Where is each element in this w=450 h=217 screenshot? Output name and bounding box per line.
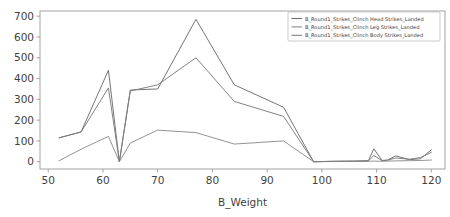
chart-legend[interactable]: B_Round1_Strikes_Clinch Head Strikes_Lan…	[288, 12, 440, 41]
y-tick-label: 100	[14, 135, 34, 147]
x-tick-label: 120	[421, 174, 441, 186]
chart-figure: 5060708090100110120 01002003004005006007…	[0, 0, 450, 217]
legend-label-2: B_Round1_Strikes_Clinch Body Strikes_Lan…	[305, 32, 423, 39]
y-tick-label: 300	[14, 93, 34, 105]
x-tick-label: 110	[367, 174, 387, 186]
y-tick-label: 700	[14, 10, 34, 22]
y-tick-label: 500	[14, 51, 34, 63]
x-tick-label: 90	[260, 174, 273, 186]
x-tick-label: 80	[206, 174, 219, 186]
x-tick-label: 100	[312, 174, 332, 186]
legend-label-0: B_Round1_Strikes_Clinch Head Strikes_Lan…	[305, 16, 424, 23]
y-tick-label: 600	[14, 31, 34, 43]
legend-label-1: B_Round1_Strikes_Clinch Leg Strikes_Land…	[305, 24, 419, 31]
y-tick-label: 400	[14, 72, 34, 84]
y-tick-label: 200	[14, 114, 34, 126]
y-tick-label: 0	[27, 155, 34, 167]
x-tick-label: 60	[96, 174, 109, 186]
x-tick-label: 70	[151, 174, 164, 186]
x-tick-label: 50	[42, 174, 55, 186]
line-chart: 5060708090100110120 01002003004005006007…	[0, 0, 450, 217]
x-axis-title: B_Weight	[218, 196, 267, 209]
